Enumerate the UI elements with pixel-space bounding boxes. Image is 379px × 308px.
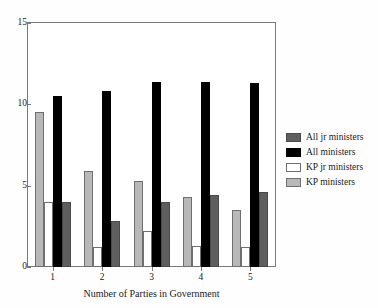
- bar-all-ministers-5: [250, 83, 259, 267]
- x-axis-tick-mark-4: [201, 267, 202, 271]
- bar-kp-jr-ministers-3: [143, 231, 152, 267]
- white-swatch: [286, 163, 301, 172]
- legend-item-all-ministers[interactable]: All ministers: [286, 145, 378, 159]
- legend-label-all-ministers: All ministers: [306, 147, 355, 158]
- black-swatch: [286, 148, 301, 157]
- light-gray-swatch: [286, 178, 301, 187]
- x-axis-tick-label-2: 2: [87, 272, 117, 282]
- bar-all-jr-ministers-5: [259, 192, 268, 267]
- bar-kp-ministers-5: [232, 210, 241, 267]
- bars-layer: [28, 23, 275, 267]
- x-axis-tick-mark-1: [53, 267, 54, 271]
- bar-all-jr-ministers-1: [62, 202, 71, 267]
- bar-group-3: [134, 23, 170, 267]
- bar-all-ministers-4: [201, 82, 210, 267]
- bar-group-4: [183, 23, 219, 267]
- bar-all-ministers-1: [53, 96, 62, 267]
- y-axis-tick-label-5: 5: [0, 181, 27, 191]
- bar-all-jr-ministers-3: [161, 202, 170, 267]
- y-axis-tick-label-10: 10: [0, 99, 27, 109]
- bar-kp-jr-ministers-1: [44, 202, 53, 267]
- x-axis-tick-label-1: 1: [38, 272, 68, 282]
- x-axis-tick-label-5: 5: [235, 272, 265, 282]
- bar-kp-ministers-3: [134, 181, 143, 267]
- bar-all-jr-ministers-4: [210, 195, 219, 267]
- bar-kp-ministers-4: [183, 197, 192, 267]
- x-axis-tick-label-4: 4: [186, 272, 216, 282]
- legend-label-kp-jr-ministers: KP jr ministers: [306, 162, 363, 173]
- legend-item-kp-jr-ministers[interactable]: KP jr ministers: [286, 160, 378, 174]
- bar-all-jr-ministers-2: [111, 221, 120, 267]
- bar-kp-jr-ministers-2: [93, 247, 102, 267]
- bar-chart-figure: 15 10 5 0 12345 Number of Parties in Gov…: [0, 0, 379, 308]
- x-axis-tick-mark-3: [152, 267, 153, 271]
- bar-group-1: [35, 23, 71, 267]
- legend: All jr ministersAll ministersKP jr minis…: [286, 130, 378, 190]
- legend-label-all-jr-ministers: All jr ministers: [306, 132, 364, 143]
- y-axis-tick-label-0: 0: [0, 262, 27, 272]
- bar-kp-jr-ministers-4: [192, 246, 201, 267]
- bar-group-5: [232, 23, 268, 267]
- bar-group-2: [84, 23, 120, 267]
- bar-kp-ministers-2: [84, 171, 93, 267]
- x-axis-tick-mark-2: [102, 267, 103, 271]
- bar-all-ministers-3: [152, 82, 161, 267]
- bar-kp-ministers-1: [35, 112, 44, 267]
- bar-kp-jr-ministers-5: [241, 247, 250, 267]
- legend-label-kp-ministers: KP ministers: [306, 177, 355, 188]
- x-axis-label: Number of Parties in Government: [27, 288, 276, 300]
- x-axis-tick-label-3: 3: [137, 272, 167, 282]
- y-axis-tick-mark-0: [27, 267, 31, 268]
- dark-gray-swatch: [286, 133, 301, 142]
- bar-all-ministers-2: [102, 91, 111, 267]
- y-axis-tick-label-15: 15: [0, 18, 27, 28]
- legend-item-all-jr-ministers[interactable]: All jr ministers: [286, 130, 378, 144]
- legend-item-kp-ministers[interactable]: KP ministers: [286, 175, 378, 189]
- x-axis-tick-mark-5: [250, 267, 251, 271]
